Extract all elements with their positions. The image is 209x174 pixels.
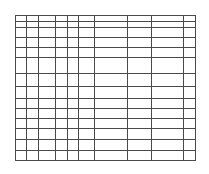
- table-row-line: [15, 57, 196, 58]
- table-row-line: [15, 118, 196, 119]
- table-row-line: [15, 27, 196, 28]
- table-row-line: [15, 108, 196, 109]
- table-row-line: [15, 128, 196, 129]
- table-row-line: [15, 15, 196, 16]
- table-row-line: [15, 21, 196, 22]
- table-row-line: [15, 160, 196, 161]
- empty-table-grid: [0, 0, 209, 174]
- table-row-line: [15, 86, 196, 87]
- table-row-line: [15, 37, 196, 38]
- table-row-line: [15, 73, 196, 74]
- table-row-line: [15, 150, 196, 151]
- table-row-line: [15, 139, 196, 140]
- table-row-line: [15, 47, 196, 48]
- table-row-line: [15, 98, 196, 99]
